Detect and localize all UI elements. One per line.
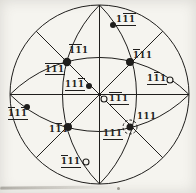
stereogram-figure: 111111111111111111111111111111111111 bbox=[0, 0, 196, 193]
scan-artifact-speck bbox=[117, 187, 120, 190]
pole-marker-twin-m111 bbox=[83, 159, 89, 165]
pole-label-twin-m111: 111 bbox=[61, 155, 81, 168]
pole-label-matrix-1m11: 111 bbox=[49, 123, 69, 134]
pole-label-twin-1m1m1: 111 bbox=[116, 13, 136, 26]
pole-label-matrix-111: 111 bbox=[137, 110, 157, 121]
digit: 1 bbox=[62, 123, 69, 134]
pole-label-matrix-m1m11: 111 bbox=[69, 44, 89, 55]
digit: 1 bbox=[122, 92, 129, 103]
digit-overbar: 1 bbox=[78, 78, 85, 89]
digit: 1 bbox=[74, 155, 81, 166]
digit: 1 bbox=[160, 72, 167, 83]
pole-label-twin-m1m11: 111 bbox=[109, 92, 129, 105]
pole-label-twin-m11m1: 111 bbox=[8, 107, 28, 120]
pole-marker-matrix-111 bbox=[127, 124, 134, 131]
pole-marker-twin-m1m11 bbox=[101, 96, 107, 102]
digit-overbar: 1 bbox=[129, 13, 136, 24]
pole-label-twin-111: 111 bbox=[103, 127, 123, 140]
pole-label-twin-11m1: 111 bbox=[65, 78, 85, 91]
digit: 1 bbox=[146, 49, 153, 60]
great-circles bbox=[10, 5, 189, 184]
digit: 1 bbox=[116, 127, 123, 138]
projection-svg bbox=[0, 0, 196, 193]
digit: 1 bbox=[150, 110, 157, 121]
pole-marker-twin-11m1 bbox=[86, 83, 92, 89]
pole-label-twin-1m11: 111 bbox=[147, 72, 167, 85]
pole-label-matrix-m111: 111 bbox=[133, 49, 153, 60]
digit: 1 bbox=[82, 44, 89, 55]
digit-overbar: 1 bbox=[58, 63, 65, 73]
pole-marker-twin-1m11 bbox=[167, 77, 173, 83]
pole-label-twin-m1m1m1: 111 bbox=[45, 63, 65, 75]
digit-overbar: 1 bbox=[21, 107, 28, 118]
